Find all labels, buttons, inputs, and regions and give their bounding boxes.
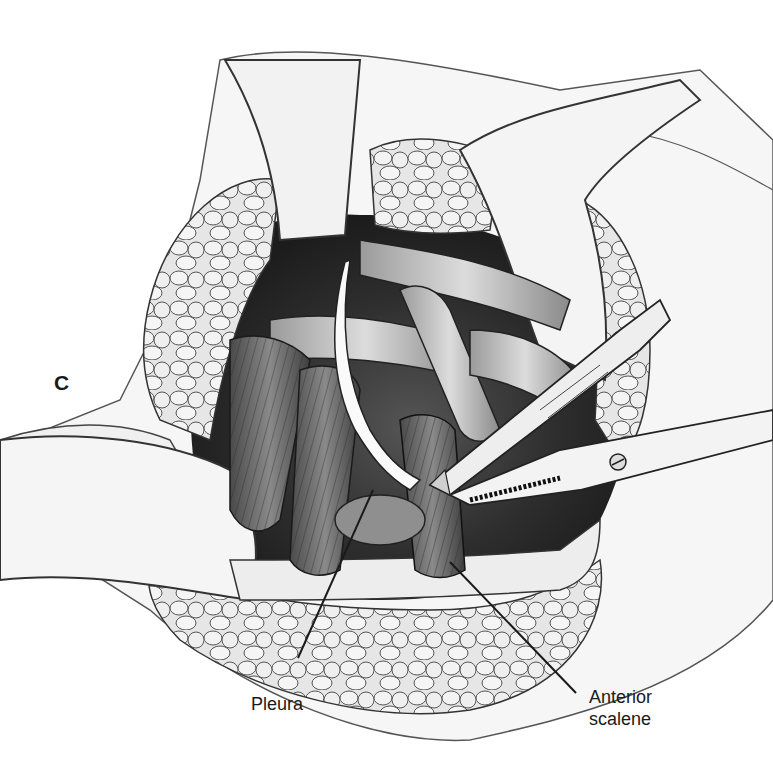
label-anterior-scalene: Anterior scalene [589, 686, 652, 730]
label-pleura: Pleura [251, 693, 303, 715]
panel-letter: C [54, 372, 69, 394]
surgical-illustration [0, 0, 773, 781]
label-anterior-scalene-line1: Anterior [589, 686, 652, 708]
pleura-dome [335, 495, 425, 545]
label-anterior-scalene-line2: scalene [589, 708, 652, 730]
